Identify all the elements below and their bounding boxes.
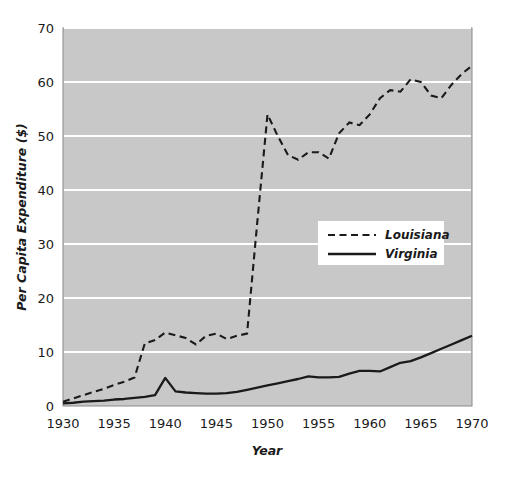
y-tick-label-60: 60 [37, 75, 54, 90]
legend-label-louisiana: Louisiana [385, 228, 450, 242]
x-tick-label-1965: 1965 [404, 416, 437, 431]
y-tick-label-50: 50 [37, 129, 54, 144]
y-axis-title: Per Capita Expenditure ($) [14, 123, 29, 311]
chart-legend: Louisiana Virginia [318, 221, 450, 265]
y-tick-label-20: 20 [37, 291, 54, 306]
x-tick-label-1960: 1960 [353, 416, 386, 431]
x-axis-tick-labels: 193019351940194519501955196019651970 [46, 416, 488, 431]
x-tick-label-1950: 1950 [251, 416, 284, 431]
y-tick-label-40: 40 [37, 183, 54, 198]
plot-area-background [63, 28, 472, 406]
y-tick-label-0: 0 [46, 399, 54, 414]
x-tick-label-1970: 1970 [455, 416, 488, 431]
y-tick-label-30: 30 [37, 237, 54, 252]
x-tick-label-1945: 1945 [200, 416, 233, 431]
y-tick-label-70: 70 [37, 21, 54, 36]
x-tick-label-1930: 1930 [46, 416, 79, 431]
x-tick-label-1935: 1935 [98, 416, 131, 431]
x-tick-label-1940: 1940 [149, 416, 182, 431]
y-tick-label-10: 10 [37, 345, 54, 360]
chart-container: 010203040506070 193019351940194519501955… [0, 0, 505, 480]
x-axis-title: Year [252, 443, 283, 458]
x-tick-label-1955: 1955 [302, 416, 335, 431]
legend-label-virginia: Virginia [385, 247, 438, 261]
line-chart: 010203040506070 193019351940194519501955… [0, 0, 505, 480]
